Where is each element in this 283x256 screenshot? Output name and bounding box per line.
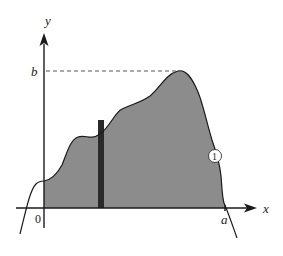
origin-label: 0: [35, 212, 41, 226]
b-label: b: [31, 64, 38, 79]
area-under-curve-diagram: y x b a 0 1: [0, 0, 283, 256]
y-axis-label: y: [43, 13, 51, 28]
a-label: a: [221, 212, 228, 227]
curve-marker-label: 1: [212, 151, 217, 162]
x-axis-label: x: [262, 201, 269, 216]
shaded-region: [44, 71, 226, 208]
